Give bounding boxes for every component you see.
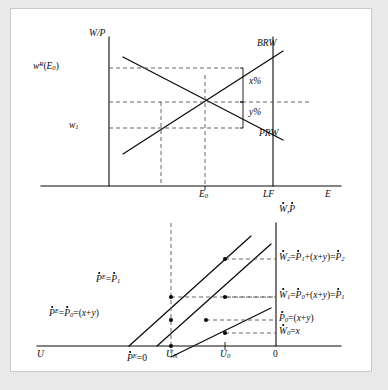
top-x-axis-label: E <box>325 190 331 200</box>
bracket-y-percent <box>240 102 243 128</box>
top-y-axis-label: W/P <box>89 29 105 39</box>
origin-label: 0 <box>273 350 278 360</box>
tick-label-U0: U0 <box>220 350 230 360</box>
right-label-P0: P0=(x+y) <box>279 314 314 324</box>
bracket-x-percent <box>240 68 243 102</box>
tick-label-UN: UN <box>166 350 177 360</box>
point-UN-curve0 <box>169 318 173 322</box>
right-label-W2: W2=P1+(x+y)=P2 <box>279 253 345 263</box>
gap-label-y-percent: y% <box>249 108 261 118</box>
prw-curve-label: PRW <box>259 129 278 139</box>
tick-label-E0: E0 <box>199 190 208 200</box>
diagram-stage: W/P wR(E0) w1 BRW PRW x% y% E0 LF E W,P … <box>11 9 371 371</box>
right-label-W1: W1=P0+(x+y)=P1 <box>279 291 345 301</box>
point-W1 <box>223 295 227 299</box>
point-P0 <box>204 318 208 322</box>
right-label-W0: W0=x <box>279 327 300 337</box>
phillips-label-1: PE=P0=(x+y) <box>49 308 99 319</box>
tick-label-wR-E0: wR(E0) <box>33 61 59 72</box>
point-natural-rate <box>169 344 173 348</box>
phillips-label-0: PE=0 <box>127 353 147 363</box>
point-W0 <box>223 331 227 335</box>
bottom-x-axis-label: U <box>37 350 44 360</box>
bottom-y-axis-label: W,P <box>279 205 295 215</box>
brw-curve <box>123 51 283 154</box>
point-UN-curve1 <box>169 295 173 299</box>
tick-label-w1: w1 <box>69 121 79 131</box>
brw-curve-label: BRW <box>257 39 276 49</box>
figure-panel: W/P wR(E0) w1 BRW PRW x% y% E0 LF E W,P … <box>10 8 372 372</box>
tick-label-LF: LF <box>263 190 274 200</box>
phillips-label-2: PE=P1 <box>96 274 120 285</box>
gap-label-x-percent: x% <box>249 77 261 87</box>
point-W2 <box>223 257 227 261</box>
phillips-curve-2 <box>129 236 251 346</box>
